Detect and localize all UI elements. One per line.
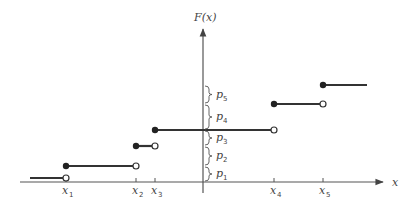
closed-dot [320,82,326,88]
x-ticks: x1x2x3x4x5 [62,178,330,199]
x-tick-label: x [319,184,326,197]
x-tick-subscript: 2 [139,191,143,199]
jump-label: p [216,149,223,162]
x-tick-label: x [151,184,158,197]
brace-icon [205,131,212,145]
open-dot [133,163,139,169]
x-tick-subscript: 1 [69,191,73,199]
open-dot [152,143,158,149]
x-tick-label: x [270,184,277,197]
brace-icon [205,105,212,129]
jump-label: p [216,110,223,123]
cdf-step-diagram: F(x) x x1x2x3x4x5 p1p2p3p4p5 [0,0,407,205]
closed-dot [271,101,277,107]
closed-dot [133,143,139,149]
x-tick-subscript: 3 [158,191,162,199]
jump-label-subscript: 5 [223,95,227,103]
jump-label: p [216,131,223,144]
x-tick-subscript: 4 [277,191,282,199]
x-axis-label: x [392,176,399,189]
step-segments [30,82,367,181]
x-tick-subscript: 5 [326,191,330,199]
jump-label: p [216,88,223,101]
closed-dot [152,127,158,133]
open-dot [271,127,277,133]
open-dot [320,101,326,107]
jump-label-subscript: 2 [223,156,227,164]
jump-label-subscript: 3 [223,138,227,146]
open-dot [63,175,69,181]
closed-dot [63,163,69,169]
jump-label: p [216,167,223,180]
y-axis-label: F(x) [193,11,216,24]
jump-braces: p1p2p3p4p5 [205,86,228,182]
x-tick-label: x [132,184,139,197]
jump-label-subscript: 1 [223,174,227,182]
brace-icon [205,167,212,181]
x-tick-label: x [62,184,69,197]
jump-label-subscript: 4 [223,117,228,125]
brace-icon [205,147,212,165]
brace-icon [205,86,212,103]
